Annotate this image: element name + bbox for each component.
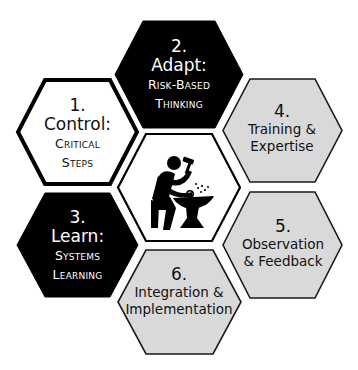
hexagon-5-observation — [223, 192, 342, 298]
hexagon-1-control — [18, 80, 137, 184]
hexagon-2-adapt — [115, 21, 243, 128]
hexagon-center — [118, 134, 240, 241]
hexagon-3-learn — [17, 193, 138, 297]
hexagon-diagram — [0, 0, 358, 370]
hexagon-6-integration — [118, 250, 241, 354]
hexagon-4-training — [223, 79, 342, 182]
